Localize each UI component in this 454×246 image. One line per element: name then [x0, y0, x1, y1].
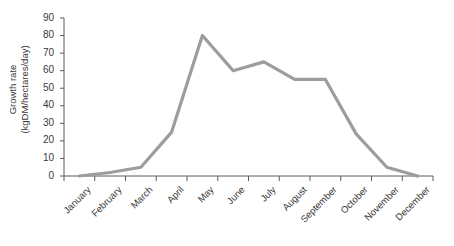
growth-rate-line-chart: Growth rate (kgDM/hectares/day) 01020304…: [0, 0, 454, 246]
growth-rate-data-line: [79, 36, 417, 176]
plot-area: [0, 0, 454, 246]
axis-lines: [64, 18, 433, 176]
x-axis-ticks: [64, 176, 433, 181]
y-axis-ticks: [60, 18, 64, 176]
